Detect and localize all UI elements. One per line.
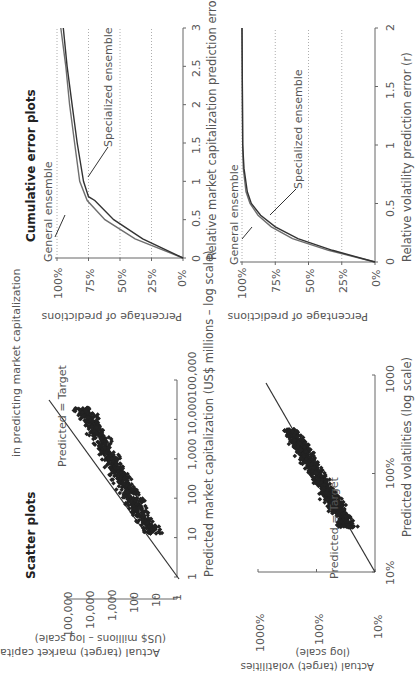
cap-scatter-x-label: Predicted market capitalization (US$ mil… bbox=[202, 250, 216, 577]
cap-cum-general-label: General ensemble bbox=[42, 161, 55, 262]
cap-scatter-tick-100000: 100,000 bbox=[62, 592, 75, 638]
cap-cum-xtick-1: 1 bbox=[190, 178, 203, 185]
arrow-icon bbox=[270, 189, 296, 215]
vol-cum-xtick-1: 1 bbox=[384, 142, 397, 149]
cap-scatter-xtick-1: 1 bbox=[186, 573, 199, 580]
vol-cum-xtick-0: 0 bbox=[384, 258, 397, 265]
vol-cum-y-label: Percentage of predictions bbox=[228, 310, 368, 323]
cap-cum-xtick-15: 1.5 bbox=[190, 137, 203, 155]
cap-scatter-tick-100: 100 bbox=[128, 592, 141, 613]
vol-scatter-y-label-1: Actual (target) volatilities bbox=[240, 661, 374, 673]
cap-scatter-annotation: Predicted = Target bbox=[56, 365, 69, 467]
vol-scatter-xtick-10: 10% bbox=[384, 561, 397, 585]
cap-scatter-xtick-10000: 10,000 bbox=[186, 397, 199, 436]
cap-scatter-xtick-1000: 1,000 bbox=[186, 439, 199, 471]
vol-scatter-ytick-1000: 1000% bbox=[254, 614, 267, 652]
cap-cum-xtick-2: 2 bbox=[190, 101, 203, 108]
arrow-icon bbox=[242, 227, 252, 239]
cap-cum-specialized-label: Specialized ensemble bbox=[102, 28, 115, 147]
vol-cum-xtick-2: 2 bbox=[384, 24, 397, 31]
vol-cum-x-label: Relative volatility prediction error (r) bbox=[400, 52, 414, 262]
cap-cum-ytick-25: 25% bbox=[146, 269, 159, 293]
vol-cum-xtick-15: 1.5 bbox=[384, 82, 397, 100]
cap-cum-xtick-3: 3 bbox=[190, 24, 203, 31]
cap-cum-ytick-100: 100% bbox=[52, 268, 65, 299]
vol-cum-ytick-25: 25% bbox=[337, 269, 350, 293]
vol-cum-ytick-100: 100% bbox=[236, 268, 249, 299]
cap-cum-x-label: Relative market capitalization predictio… bbox=[205, 0, 219, 260]
cap-scatter-tick-10000: 10,000 bbox=[84, 591, 97, 630]
vol-scatter-xtick-1000: 1000 bbox=[384, 365, 397, 393]
cap-cum-xtick-0: 0 bbox=[190, 255, 203, 262]
cap-scatter-tick-10: 10 bbox=[150, 593, 163, 607]
vol-scatter-ytick-10: 10% bbox=[372, 615, 385, 639]
vol-cum-general-label: General ensemble bbox=[228, 164, 241, 265]
cap-scatter-y-label-1: Actual (target) market capitalization bbox=[0, 646, 160, 659]
vol-scatter-y-label-2: (log scale) bbox=[295, 647, 350, 659]
cap-cum-ytick-75: 75% bbox=[84, 269, 97, 293]
cap-cum-series-general bbox=[61, 28, 183, 258]
cap-scatter-xtick-100: 100 bbox=[186, 484, 199, 505]
vol-scatter-annotation: Predicted = Target bbox=[328, 477, 341, 579]
vol-scatter-xtick-100: 100% bbox=[384, 458, 397, 489]
cap-cum-y-label: Percentage of predictions bbox=[42, 310, 182, 323]
cap-scatter-xtick-10: 10 bbox=[186, 527, 199, 541]
cap-cum-series-specialized bbox=[63, 28, 183, 258]
vol-scatter-x-label: Predicted volatilities (log scale) bbox=[400, 357, 414, 537]
arrow-icon bbox=[88, 147, 108, 177]
cap-scatter-tick-1000: 1,000 bbox=[106, 590, 119, 622]
cap-scatter-y-label-2: (US$ millions – log scale) bbox=[35, 633, 166, 645]
cap-scatter-xtick-100000: 100,000 bbox=[186, 352, 199, 398]
cap-cum-ytick-0: 0% bbox=[176, 270, 189, 287]
arrow-icon bbox=[55, 215, 65, 237]
vol-scatter-ytick-100: 100% bbox=[313, 614, 326, 645]
vol-cum-ytick-0: 0% bbox=[370, 270, 383, 287]
cap-scatter-tick-1: 1 bbox=[171, 594, 184, 601]
cap-cum-xtick-25: 2.5 bbox=[190, 60, 203, 78]
vol-cum-ytick-75: 75% bbox=[270, 269, 283, 293]
cap-cum-ytick-50: 50% bbox=[116, 269, 129, 293]
cap-cum-xtick-05: 0.5 bbox=[190, 210, 203, 228]
vol-cum-specialized-label: Specialized ensemble bbox=[292, 70, 305, 189]
vol-cum-ytick-50: 50% bbox=[304, 269, 317, 293]
vol-cum-xtick-05: 0.5 bbox=[384, 200, 397, 218]
